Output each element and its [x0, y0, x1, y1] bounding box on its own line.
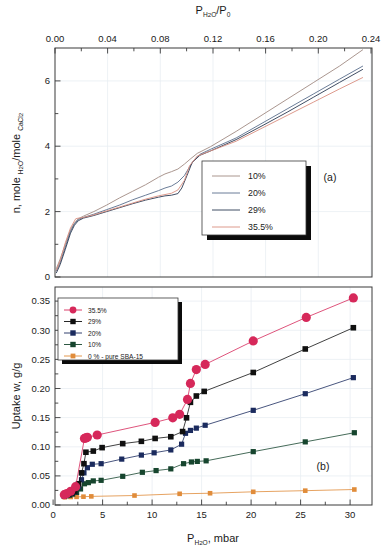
- legend-marker-20pct: [70, 330, 75, 335]
- data-point: [302, 313, 311, 322]
- panel-a-xtick-label: 0.04: [98, 33, 117, 44]
- data-point: [132, 493, 137, 498]
- panel-b-ytick-label: 0.00: [32, 499, 51, 510]
- data-point: [249, 336, 258, 345]
- series-line-10-: [64, 433, 354, 497]
- panel-b-xtick-label: 15: [196, 509, 207, 520]
- data-point: [139, 452, 144, 457]
- data-point: [201, 360, 210, 369]
- data-point: [195, 459, 200, 464]
- panel-b-ytick-label: 0.30: [32, 325, 51, 336]
- panel-a-xticks: 0.00 0.04 0.08 0.12 0.16 0.20 0.24: [46, 33, 381, 54]
- data-point: [186, 379, 195, 388]
- panel-a-ytick-label: 2: [45, 206, 50, 217]
- data-point: [352, 430, 357, 435]
- panel-b-xaxis-title: PH2O, mbar: [187, 532, 239, 546]
- data-point: [93, 430, 102, 439]
- legend-label-35_5pct: 35.5%: [248, 222, 273, 232]
- panel-b-xtick-label: 5: [100, 509, 105, 520]
- data-point: [183, 395, 192, 404]
- legend-label-10pct: 10%: [88, 341, 101, 348]
- panel-b-ytick-label: 0.20: [32, 383, 51, 394]
- panel-b-yticks: 0.00 0.05 0.10 0.15 0.20 0.25 0.30 0.35: [32, 295, 61, 510]
- data-point: [90, 448, 96, 454]
- data-point: [192, 365, 201, 374]
- data-point: [81, 494, 86, 499]
- data-point: [175, 410, 184, 419]
- legend-marker-35_5pct: [70, 307, 77, 314]
- panel-a-ytick-label: 0: [45, 271, 50, 282]
- data-point: [303, 439, 308, 444]
- legend-box: [58, 298, 178, 360]
- data-point: [119, 457, 124, 462]
- data-point: [251, 449, 256, 454]
- data-point: [120, 474, 125, 479]
- data-point: [203, 423, 208, 428]
- data-point: [194, 426, 199, 431]
- data-point: [168, 466, 173, 471]
- panel-a-ytick-label: 4: [45, 140, 50, 151]
- data-point: [177, 492, 182, 497]
- data-point: [86, 480, 91, 485]
- panel-a-label: (a): [324, 171, 337, 183]
- data-point: [99, 461, 104, 466]
- panel-b-ytick-label: 0.25: [32, 354, 51, 365]
- data-point: [153, 468, 158, 473]
- data-point: [152, 450, 157, 455]
- data-point: [120, 441, 126, 447]
- panel-b-ytick-label: 0.05: [32, 470, 51, 481]
- data-point: [81, 461, 87, 467]
- panel-a-xtick-label: 0.20: [309, 33, 328, 44]
- chart-svg: PH2O/P0: [0, 0, 388, 554]
- data-point: [204, 458, 209, 463]
- panel-b: 0.00 0.05 0.10 0.15 0.20 0.25 0.30 0.35 …: [10, 287, 372, 546]
- legend-label-29pct: 29%: [248, 205, 266, 215]
- panel-a-legend: 10% 20% 29% 35.5%: [202, 161, 311, 240]
- panel-a-xaxis-title: PH2O/P0: [196, 4, 231, 18]
- legend-label-29pct: 29%: [88, 318, 101, 325]
- panel-a-yaxis-title: n, mole H2O/mole CaCl2: [10, 112, 24, 213]
- data-point: [90, 462, 95, 467]
- data-point: [140, 470, 145, 475]
- data-point: [79, 470, 85, 476]
- data-point: [194, 393, 200, 399]
- data-point: [250, 370, 256, 376]
- data-point: [139, 439, 145, 445]
- data-point: [99, 445, 105, 451]
- legend-marker-pure-sba15: [71, 354, 76, 359]
- data-point: [91, 478, 96, 483]
- legend-marker-10pct: [70, 342, 75, 347]
- data-point: [352, 487, 357, 492]
- panel-b-xtick-label: 25: [295, 509, 306, 520]
- panel-a-yticks: 0 2 4 6: [45, 75, 61, 282]
- data-point: [83, 449, 89, 455]
- data-point: [349, 293, 358, 302]
- panel-a-ytick-label: 6: [45, 75, 50, 86]
- legend-label-35_5pct: 35.5%: [88, 307, 107, 314]
- panel-b-legend: 35.5% 29% 20% 10% 0 % - pure SBA-15: [58, 298, 182, 364]
- legend-label-20pct: 20%: [248, 188, 266, 198]
- legend-label-10pct: 10%: [248, 171, 266, 181]
- legend-label-pure-sba15: 0 % - pure SBA-15: [88, 353, 143, 361]
- panel-b-xtick-label: 20: [246, 509, 257, 520]
- data-point: [351, 375, 356, 380]
- figure-container: PH2O/P0: [0, 0, 388, 554]
- data-point: [71, 482, 80, 491]
- panel-b-xticks: 0 5 10 15 20 25 30: [50, 500, 355, 521]
- panel-a: PH2O/P0: [10, 4, 380, 282]
- series-line-20-: [64, 378, 353, 496]
- data-point: [184, 415, 190, 421]
- data-point: [302, 346, 308, 352]
- legend-label-20pct: 20%: [88, 330, 101, 337]
- data-point: [303, 488, 308, 493]
- panel-a-xtick-label: 0.00: [46, 33, 65, 44]
- data-point: [180, 429, 186, 435]
- data-point: [152, 436, 158, 442]
- panel-b-ytick-label: 0.35: [32, 295, 51, 306]
- data-point: [303, 391, 308, 396]
- panel-b-ytick-label: 0.15: [32, 412, 51, 423]
- panel-b-ytick-label: 0.10: [32, 441, 51, 452]
- panel-a-xtick-label: 0.08: [151, 33, 170, 44]
- panel-b-xtick-label: 30: [345, 509, 356, 520]
- panel-b-xtick-label: 0: [50, 509, 55, 520]
